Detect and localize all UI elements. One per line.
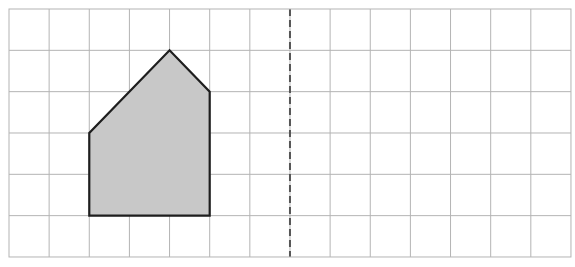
reflection-grid-diagram: [0, 0, 575, 267]
shaded-pentagon-shape: [89, 50, 209, 215]
